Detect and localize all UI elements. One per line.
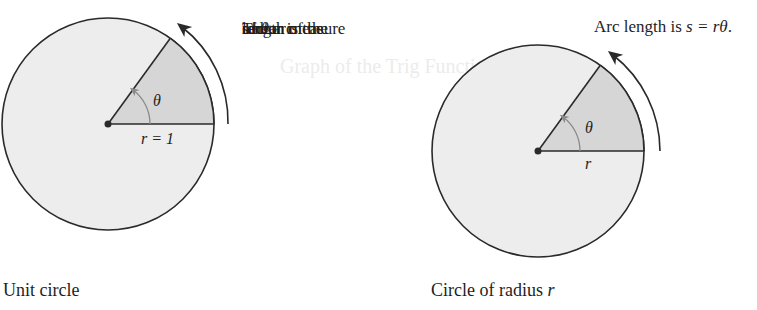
theta-symbol: θ <box>260 19 268 38</box>
right-angle-label: θ <box>585 119 593 137</box>
center-point <box>535 148 542 155</box>
annotation-period: . <box>269 19 273 38</box>
annotation-text: Arc length is <box>594 17 686 36</box>
unit-circle-figure <box>2 18 228 230</box>
arc-length-formula: s = rθ <box>686 17 728 36</box>
diagram-canvas <box>0 0 757 310</box>
left-caption: Unit circle <box>3 280 79 301</box>
left-radius-label: r = 1 <box>141 130 174 148</box>
caption-variable: r <box>547 280 554 300</box>
radius-r-circle-figure <box>432 45 660 257</box>
right-caption: Circle of radius r <box>431 280 554 301</box>
annotation-line: of θ. <box>242 19 273 38</box>
annotation-text: of <box>242 19 260 38</box>
annotation-period: . <box>728 17 732 36</box>
right-annotation: Arc length is s = rθ. <box>594 17 732 36</box>
left-annotation: The arc length of the sector is the radi… <box>242 19 273 38</box>
caption-text: Circle of radius <box>431 280 547 300</box>
left-angle-label: θ <box>153 92 161 110</box>
right-radius-label: r <box>585 155 591 173</box>
center-point <box>105 121 112 128</box>
